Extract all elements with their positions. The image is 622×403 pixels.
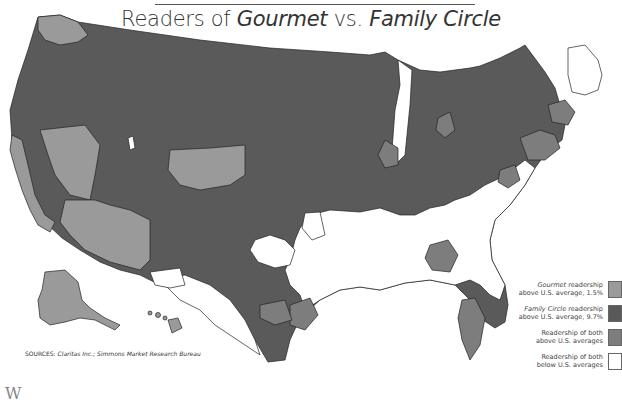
legend-item-both-above: Readership of bothabove U.S. averages (512, 326, 622, 348)
page-fragment-text: W (5, 384, 19, 403)
legend-swatch-both-below (608, 353, 622, 370)
region-hawaii (148, 311, 182, 333)
map-legend: Gourmet readershipabove U.S. average, 1.… (512, 278, 622, 374)
sources-note: SOURCES: Claritas Inc.; Simmons Market R… (25, 350, 201, 357)
region-washington-coast (38, 15, 88, 45)
legend-item-gourmet: Gourmet readershipabove U.S. average, 1.… (512, 278, 622, 300)
legend-item-both-below: Readership of bothbelow U.S. averages (512, 350, 622, 372)
legend-item-family-circle: Family Circle readershipabove U.S. avera… (512, 302, 622, 324)
legend-swatch-both-above (608, 329, 622, 346)
legend-swatch-gourmet (608, 281, 622, 298)
region-boston (548, 100, 575, 125)
region-nm-white (150, 268, 185, 288)
legend-swatch-family-circle (608, 305, 622, 322)
region-alaska (38, 270, 120, 330)
region-maine (568, 45, 602, 95)
